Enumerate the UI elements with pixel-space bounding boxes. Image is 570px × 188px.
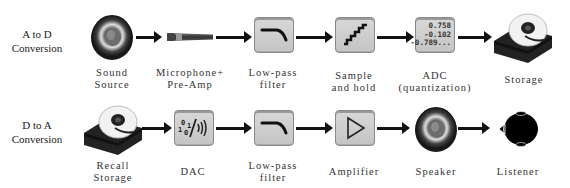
amplifier-triangle-icon [336, 111, 374, 145]
arrow-icon [216, 127, 246, 130]
amplifier-box [335, 110, 375, 146]
adc-box: 0.758 -0.102 -0.789... [415, 17, 455, 53]
low-pass-filter-icon [255, 18, 293, 52]
caption-adc: ADC (quantization) [385, 70, 485, 94]
row-label-line: Conversion [2, 41, 72, 55]
head-icon [497, 110, 541, 150]
hard-drive-icon [82, 100, 144, 156]
sample-and-hold-box [335, 17, 375, 53]
caption-line: Listener [468, 166, 568, 178]
staircase-icon [336, 18, 374, 52]
row-label-line: A to D [2, 27, 72, 41]
arrow-icon [458, 127, 484, 130]
dac-box: 0 1 1 0 [174, 110, 214, 146]
caption-line: ADC [385, 70, 485, 82]
adc-value: -0.789... [410, 39, 451, 48]
row-label-a-to-d: A to D Conversion [2, 27, 72, 55]
row-label-line: Conversion [2, 132, 72, 146]
binary-to-sound-icon: 0 1 1 0 [175, 111, 213, 145]
arrow-icon [136, 36, 156, 39]
arrow-icon [458, 36, 486, 39]
arrow-icon [296, 127, 327, 130]
arrow-icon [377, 127, 404, 130]
hard-drive-icon [492, 8, 554, 64]
low-pass-filter-icon [255, 111, 293, 145]
svg-text:0: 0 [184, 129, 188, 137]
arrow-icon [296, 36, 327, 39]
arrow-icon [377, 36, 408, 39]
low-pass-filter-box [254, 110, 294, 146]
caption-line: (quantization) [385, 82, 485, 94]
arrow-icon [216, 36, 246, 39]
caption-storage: Storage [474, 74, 570, 86]
row-label-line: D to A [2, 118, 72, 132]
low-pass-filter-box [254, 17, 294, 53]
row-label-d-to-a: D to A Conversion [2, 118, 72, 146]
svg-text:1: 1 [178, 126, 182, 134]
caption-line: Storage [474, 74, 570, 86]
speaker-icon [88, 11, 136, 61]
speaker-icon [412, 103, 460, 153]
adc-values: 0.758 -0.102 -0.789... [410, 22, 451, 48]
caption-listener: Listener [468, 166, 568, 178]
arrow-icon [142, 127, 166, 130]
microphone-icon [165, 31, 217, 43]
